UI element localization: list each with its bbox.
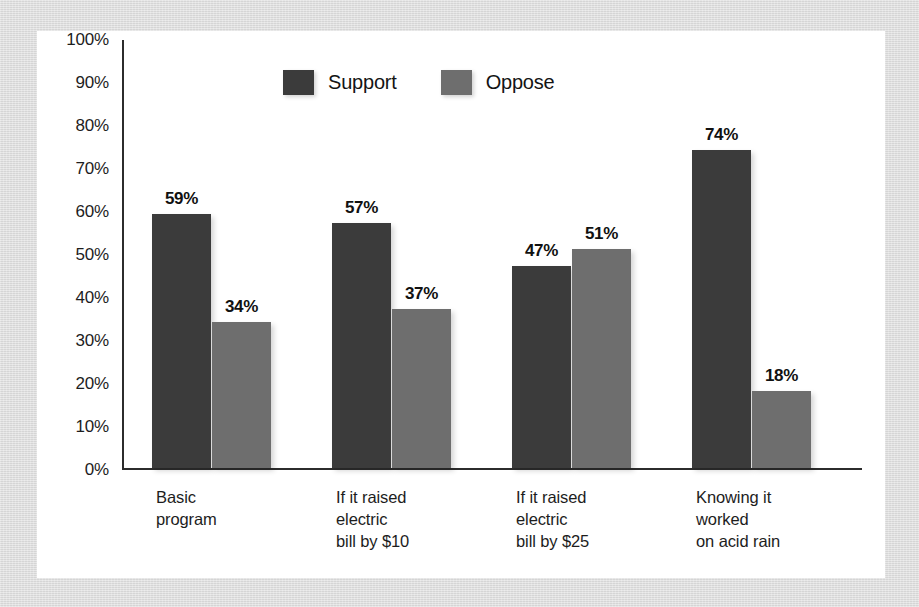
y-axis-tick-10: 10% (76, 417, 109, 437)
bar-oppose-1: 34% (212, 322, 271, 468)
y-axis-tick-80: 80% (76, 116, 109, 136)
category-label-3: If it raised electric bill by $25 (516, 486, 589, 552)
bar-value-label-support-2: 57% (345, 198, 378, 218)
bar-value-label-oppose-1: 34% (225, 297, 258, 317)
bar-group-1: 59%34% (152, 38, 271, 468)
category-label-4: Knowing it worked on acid rain (696, 486, 780, 552)
bar-value-label-support-4: 74% (705, 125, 738, 145)
bar-support-4: 74% (692, 150, 751, 468)
bar-value-label-oppose-2: 37% (405, 284, 438, 304)
bar-support-3: 47% (512, 266, 571, 468)
y-axis-tick-100: 100% (66, 30, 109, 50)
x-axis-line (122, 468, 862, 470)
y-axis-line (122, 40, 124, 470)
y-axis-tick-90: 90% (76, 73, 109, 93)
bar-value-label-oppose-3: 51% (585, 224, 618, 244)
y-axis-tick-60: 60% (76, 202, 109, 222)
y-axis-tick-40: 40% (76, 288, 109, 308)
chart-panel: Support Oppose 100%90%80%70%60%50%40%30%… (37, 31, 885, 578)
category-label-2: If it raised electric bill by $10 (336, 486, 409, 552)
bar-oppose-2: 37% (392, 309, 451, 468)
bar-value-label-support-1: 59% (165, 189, 198, 209)
bar-group-2: 57%37% (332, 38, 451, 468)
bar-support-2: 57% (332, 223, 391, 468)
bar-value-label-oppose-4: 18% (765, 366, 798, 386)
y-axis-tick-20: 20% (76, 374, 109, 394)
bar-group-4: 74%18% (692, 38, 811, 468)
y-axis-tick-70: 70% (76, 159, 109, 179)
bar-value-label-support-3: 47% (525, 241, 558, 261)
y-axis-tick-50: 50% (76, 245, 109, 265)
bar-group-3: 47%51% (512, 38, 631, 468)
bar-support-1: 59% (152, 214, 211, 468)
y-axis-tick-0: 0% (85, 460, 109, 480)
y-axis-tick-30: 30% (76, 331, 109, 351)
plot-area: 100%90%80%70%60%50%40%30%20%10%0% 59%34%… (122, 40, 862, 470)
bar-oppose-4: 18% (752, 391, 811, 468)
category-label-1: Basic program (156, 486, 217, 530)
bar-oppose-3: 51% (572, 249, 631, 468)
